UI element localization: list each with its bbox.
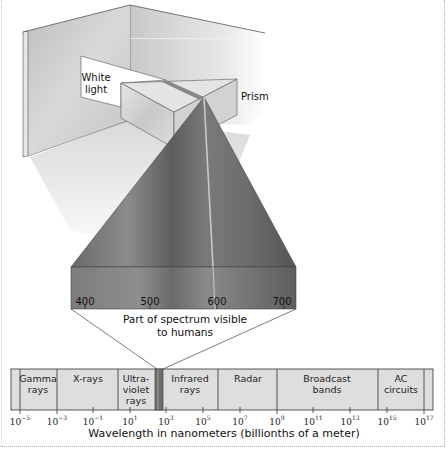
band-xrays: X-rays <box>73 373 103 384</box>
visible-caption: Part of spectrum visible to humans <box>80 313 290 339</box>
tick-1e3: 103 <box>158 414 173 427</box>
tick-1e11: 1011 <box>303 414 322 427</box>
tick-1e15: 1015 <box>377 414 396 427</box>
tick-1e17: 1017 <box>414 414 433 427</box>
band-gamma: Gammarays <box>19 373 57 395</box>
tick-1e7: 107 <box>232 414 247 427</box>
white-light-label: White light <box>74 72 118 96</box>
visible-caption-line1: Part of spectrum visible <box>80 313 290 326</box>
tick-1e-3: 10−3 <box>47 414 67 427</box>
band-ac-circuits: ACcircuits <box>384 373 418 395</box>
prism-label: Prism <box>241 91 269 103</box>
axis-title: Wavelength in nanometers (billionths of … <box>0 427 448 440</box>
tick-1e1: 101 <box>122 414 137 427</box>
nm-500: 500 <box>140 296 159 307</box>
band-ultraviolet: Ultra-violetrays <box>123 373 149 406</box>
tick-1e-5: 10−5 <box>10 414 30 427</box>
visible-band-marker <box>155 369 163 410</box>
nm-400: 400 <box>75 296 94 307</box>
tick-1e9: 109 <box>269 414 284 427</box>
band-radar: Radar <box>234 373 262 384</box>
prism-illustration <box>0 0 448 450</box>
visible-spectrum-band <box>71 267 296 309</box>
tick-1e-1: 10−1 <box>83 414 103 427</box>
band-infrared: Infraredrays <box>171 373 208 395</box>
visible-caption-line2: to humans <box>80 326 290 339</box>
nm-700: 700 <box>272 296 291 307</box>
nm-600: 600 <box>207 296 226 307</box>
tick-1e5: 105 <box>195 414 210 427</box>
band-broadcast: Broadcastbands <box>303 373 351 395</box>
tick-1e13: 1013 <box>340 414 359 427</box>
white-light-text: White light <box>79 72 113 96</box>
